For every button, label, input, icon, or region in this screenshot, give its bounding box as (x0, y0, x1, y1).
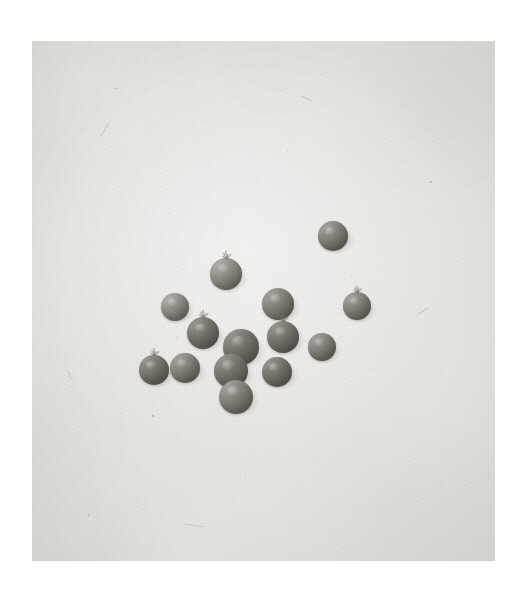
fruit-far-left-low (139, 355, 169, 385)
fruit-highlight (315, 338, 325, 346)
photo-plate (32, 41, 495, 561)
fruit-grain (161, 293, 189, 321)
fruit-grain (343, 292, 371, 320)
fruit-left-mid (187, 317, 219, 349)
fruit-highlight (146, 361, 156, 369)
emulsion-scratch (67, 369, 72, 379)
fruit-shadow-side (308, 333, 336, 361)
fruit-highlight (168, 298, 178, 306)
fruit-right-small (308, 333, 336, 361)
fruit-grain (139, 355, 169, 385)
emulsion-speck (375, 369, 377, 371)
fruit-bottom (219, 380, 253, 414)
fruit-grain (262, 288, 294, 320)
fruit-shadow-side (262, 357, 292, 387)
fruit-grain (308, 333, 336, 361)
fruit-shadow-side (161, 293, 189, 321)
fruit-grain (210, 258, 242, 290)
fruit-shadow-side (139, 355, 169, 385)
emulsion-speck (245, 478, 246, 479)
emulsion-speck (152, 415, 153, 416)
fruit-grain (170, 353, 200, 383)
fruit-shadow-side (343, 292, 371, 320)
emulsion-speck (176, 337, 177, 338)
fruit-shadow-side (267, 321, 299, 353)
emulsion-speck (430, 181, 431, 182)
fruit-highlight (270, 294, 281, 303)
fruit-grain (187, 317, 219, 349)
fruit-shadow-side (187, 317, 219, 349)
emulsion-speck (115, 88, 117, 90)
fruit-shadow-side (210, 258, 242, 290)
emulsion-scratch (100, 123, 109, 137)
emulsion-speck (458, 452, 459, 453)
photograph-frame (0, 0, 527, 591)
emulsion-speck (88, 514, 89, 515)
fruit-left-low (170, 353, 200, 383)
fruit-highlight (275, 327, 286, 336)
fruit-highlight (350, 297, 360, 305)
fruit-highlight (232, 336, 244, 346)
fruit-highlight (177, 359, 187, 367)
emulsion-scratch (417, 308, 429, 316)
fruit-center-right (267, 321, 299, 353)
fruit-highlight (195, 323, 206, 332)
fruit-grain (219, 380, 253, 414)
fruit-grain (262, 357, 292, 387)
fruit-highlight (218, 264, 229, 273)
fruit-grain (267, 321, 299, 353)
fruit-right-stemmed (343, 292, 371, 320)
fruit-highlight (325, 227, 335, 235)
fruit-shadow-side (318, 221, 348, 251)
emulsion-speck (324, 72, 325, 73)
fruit-grain (318, 221, 348, 251)
emulsion-speck (351, 275, 352, 276)
fruit-top-right-outlier (318, 221, 348, 251)
fruit-shadow-side (170, 353, 200, 383)
fruit-highlight (269, 363, 279, 371)
fruit-highlight (222, 360, 234, 370)
fruit-center-upper (262, 288, 294, 320)
fruit-upper-stemmed (210, 258, 242, 290)
fruit-left-pale (161, 293, 189, 321)
emulsion-scratch (301, 96, 312, 101)
fruit-highlight (227, 386, 239, 396)
fruit-shadow-side (219, 380, 253, 414)
emulsion-speck (74, 239, 75, 240)
emulsion-scratch (185, 523, 203, 526)
fruit-shadow-side (262, 288, 294, 320)
fruit-lower-right (262, 357, 292, 387)
emulsion-speck (287, 150, 288, 151)
